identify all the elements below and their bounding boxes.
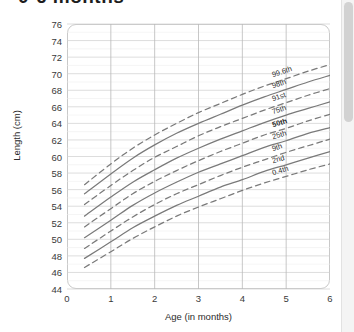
x-tick-2: 2 xyxy=(144,293,166,304)
y-tick-72: 72 xyxy=(28,52,62,63)
y-tick-62: 62 xyxy=(28,134,62,145)
plot-area: 99.6th98th91st75th50th25th9th2nd0.4th xyxy=(67,24,330,289)
x-tick-0: 0 xyxy=(56,293,78,304)
y-tick-60: 60 xyxy=(28,151,62,162)
x-tick-3: 3 xyxy=(188,293,210,304)
y-tick-56: 56 xyxy=(28,184,62,195)
x-tick-6: 6 xyxy=(319,293,341,304)
y-tick-52: 52 xyxy=(28,217,62,228)
y-tick-70: 70 xyxy=(28,68,62,79)
x-tick-5: 5 xyxy=(275,293,297,304)
percentile-curve-98th xyxy=(85,75,330,193)
percentile-curve-91st xyxy=(85,89,330,205)
scrollbar-thumb[interactable] xyxy=(344,2,353,122)
x-axis-label: Age (in months) xyxy=(67,311,330,322)
percentile-curve-50th xyxy=(85,114,330,227)
y-tick-74: 74 xyxy=(28,35,62,46)
percentile-curve-2nd xyxy=(85,152,330,259)
x-tick-1: 1 xyxy=(100,293,122,304)
y-tick-64: 64 xyxy=(28,118,62,129)
y-tick-58: 58 xyxy=(28,168,62,179)
y-axis-ticks: 4446485052545658606264666870727476 xyxy=(22,24,62,289)
y-tick-66: 66 xyxy=(28,101,62,112)
y-tick-68: 68 xyxy=(28,85,62,96)
y-axis-label: Length (cm) xyxy=(11,96,22,176)
x-tick-4: 4 xyxy=(231,293,253,304)
percentile-curve-75th xyxy=(85,102,330,216)
y-tick-54: 54 xyxy=(28,201,62,212)
growth-chart-page: 0-6 months Length (cm) 99.6th98th91st75t… xyxy=(0,0,354,332)
y-tick-46: 46 xyxy=(28,267,62,278)
x-axis-ticks: 0123456 xyxy=(67,293,330,309)
vertical-scrollbar[interactable] xyxy=(341,0,354,332)
y-tick-76: 76 xyxy=(28,19,62,30)
y-tick-48: 48 xyxy=(28,250,62,261)
percentile-curve-9th xyxy=(85,139,330,248)
page-title: 0-6 months xyxy=(18,0,318,10)
percentile-curves xyxy=(67,24,330,289)
percentile-curve-0.4th xyxy=(85,164,330,268)
y-tick-50: 50 xyxy=(28,234,62,245)
